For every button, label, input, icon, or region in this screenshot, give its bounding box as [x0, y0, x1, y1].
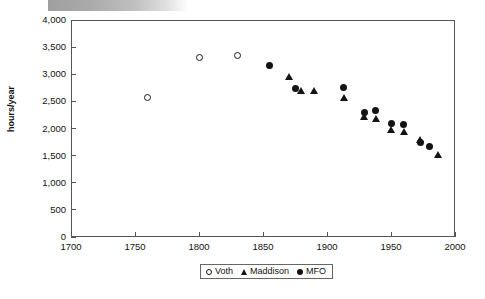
- y-axis-label: hours/year: [6, 64, 16, 154]
- data-point-maddison: [372, 115, 380, 122]
- data-point-mfo: [361, 109, 368, 116]
- y-tick-label: 3,000: [20, 68, 66, 79]
- legend-entry-voth: Voth: [206, 267, 233, 276]
- y-tick-mark: [71, 101, 76, 102]
- data-point-voth: [196, 54, 203, 61]
- legend-marker-circle-filled-icon: [297, 269, 303, 275]
- data-point-maddison: [400, 128, 408, 135]
- y-tick-label: 1,000: [20, 177, 66, 188]
- scatter-chart: hours/year 05001,0001,5002,0002,5003,000…: [0, 0, 485, 299]
- data-point-mfo: [266, 62, 273, 69]
- x-tick-label: 1750: [115, 241, 155, 252]
- legend-label: Voth: [215, 267, 233, 276]
- data-point-voth: [234, 52, 241, 59]
- y-tick-mark: [71, 20, 76, 21]
- data-point-mfo: [372, 107, 379, 114]
- x-tick-label: 1850: [243, 241, 283, 252]
- x-tick-mark: [391, 232, 392, 237]
- x-tick-label: 1800: [179, 241, 219, 252]
- legend-entry-maddison: Maddison: [241, 267, 289, 276]
- legend-marker-triangle-filled-icon: [241, 269, 247, 275]
- x-tick-mark: [455, 232, 456, 237]
- data-point-voth: [144, 94, 151, 101]
- legend-marker-circle-open-icon: [206, 269, 212, 275]
- data-point-mfo: [388, 120, 395, 127]
- x-tick-mark: [263, 232, 264, 237]
- data-point-maddison: [297, 87, 305, 94]
- data-point-mfo: [292, 85, 299, 92]
- y-tick-mark: [71, 237, 76, 238]
- data-point-maddison: [434, 151, 442, 158]
- x-tick-label: 2000: [435, 241, 475, 252]
- legend-label: MFO: [306, 267, 326, 276]
- x-tick-mark: [71, 232, 72, 237]
- plot-frame: [71, 20, 455, 237]
- y-tick-label: 1,500: [20, 150, 66, 161]
- y-tick-mark: [71, 155, 76, 156]
- x-tick-label: 1950: [371, 241, 411, 252]
- legend-entry-mfo: MFO: [297, 267, 326, 276]
- y-tick-label: 2,000: [20, 123, 66, 134]
- y-tick-label: 4,000: [20, 14, 66, 25]
- x-tick-label: 1900: [307, 241, 347, 252]
- data-point-mfo: [426, 143, 433, 150]
- data-point-maddison: [285, 73, 293, 80]
- x-tick-mark: [327, 232, 328, 237]
- y-tick-mark: [71, 74, 76, 75]
- y-tick-mark: [71, 182, 76, 183]
- data-point-maddison: [387, 126, 395, 133]
- x-tick-mark: [135, 232, 136, 237]
- legend-label: Maddison: [250, 267, 289, 276]
- data-point-maddison: [340, 94, 348, 101]
- y-tick-mark: [71, 209, 76, 210]
- data-point-mfo: [340, 84, 347, 91]
- y-tick-label: 3,500: [20, 41, 66, 52]
- y-tick-mark: [71, 47, 76, 48]
- x-tick-label: 1700: [51, 241, 91, 252]
- data-point-mfo: [400, 121, 407, 128]
- y-tick-label: 2,500: [20, 95, 66, 106]
- data-point-maddison: [310, 87, 318, 94]
- data-point-mfo: [417, 139, 424, 146]
- x-tick-mark: [199, 232, 200, 237]
- chart-legend: VothMaddisonMFO: [200, 264, 333, 279]
- y-tick-mark: [71, 128, 76, 129]
- y-tick-label: 500: [20, 204, 66, 215]
